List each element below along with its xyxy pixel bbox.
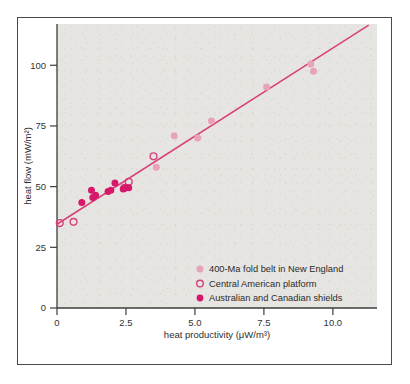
x-tick-label: 2.5 bbox=[119, 317, 132, 328]
data-point bbox=[153, 164, 160, 171]
x-axis-ticks: 02.55.07.510.0 bbox=[54, 308, 342, 328]
legend-label-3: Australian and Canadian shields bbox=[209, 293, 343, 303]
data-point bbox=[78, 199, 85, 206]
data-point bbox=[263, 84, 270, 91]
figure-frame: 0255075100 02.55.07.510.0 heat flow (mW/… bbox=[17, 17, 392, 365]
series-3 bbox=[78, 179, 132, 205]
data-point bbox=[92, 192, 99, 199]
y-tick-label: 50 bbox=[35, 181, 46, 192]
chart-svg: 0255075100 02.55.07.510.0 heat flow (mW/… bbox=[18, 18, 393, 366]
y-tick-label: 75 bbox=[35, 120, 46, 131]
x-tick-label: 0 bbox=[54, 317, 59, 328]
data-point bbox=[194, 135, 201, 142]
legend-marker-2 bbox=[197, 280, 204, 287]
y-tick-label: 0 bbox=[41, 302, 46, 313]
data-point bbox=[208, 118, 215, 125]
x-tick-label: 5.0 bbox=[188, 317, 201, 328]
series-1 bbox=[153, 61, 317, 171]
data-point bbox=[107, 187, 114, 194]
data-point bbox=[307, 61, 314, 68]
x-tick-label: 7.5 bbox=[257, 317, 270, 328]
data-point bbox=[125, 178, 132, 185]
data-point bbox=[310, 68, 317, 75]
legend-label-1: 400-Ma fold belt in New England bbox=[209, 264, 343, 274]
data-point bbox=[70, 218, 77, 225]
legend-marker-1 bbox=[197, 266, 204, 273]
legend: 400-Ma fold belt in New EnglandCentral A… bbox=[197, 264, 344, 303]
data-point bbox=[125, 184, 132, 191]
regression-line bbox=[57, 25, 369, 224]
data-points-group bbox=[56, 61, 317, 227]
y-axis-ticks: 0255075100 bbox=[30, 60, 57, 314]
data-point bbox=[150, 153, 157, 160]
y-tick-label: 100 bbox=[30, 60, 46, 71]
y-axis-title: heat flow (mW/m²) bbox=[22, 127, 33, 205]
x-axis-title: heat productivity (μW/m³) bbox=[164, 329, 270, 340]
x-tick-label: 10.0 bbox=[324, 317, 343, 328]
data-point bbox=[171, 132, 178, 139]
legend-marker-3 bbox=[197, 295, 204, 302]
legend-label-2: Central American platform bbox=[209, 279, 317, 289]
trend-line bbox=[57, 25, 369, 224]
data-point bbox=[111, 179, 118, 186]
y-tick-label: 25 bbox=[35, 242, 46, 253]
